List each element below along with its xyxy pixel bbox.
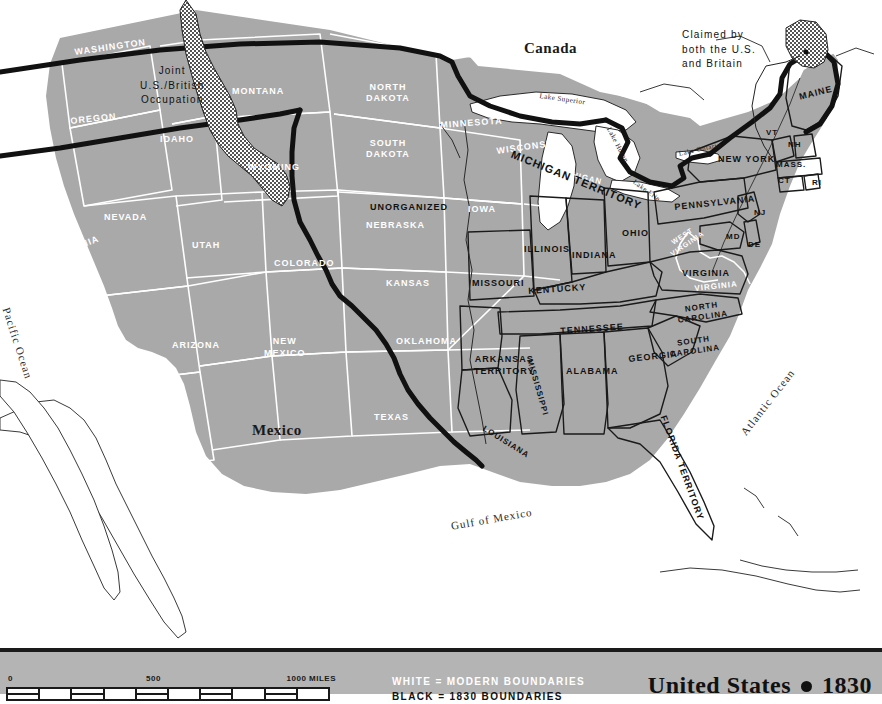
scale-segment [105, 689, 137, 699]
florida-keys [740, 560, 858, 572]
bullet-dot-icon [801, 681, 812, 692]
map-title: United States1830 [648, 672, 872, 699]
scale-segment [137, 689, 169, 699]
scale-segment [169, 689, 201, 699]
scale-segment [266, 689, 298, 699]
scale-label-max: 1000 MILES [287, 674, 336, 683]
map-canvas: Canada Mexico Pacific Ocean Atlantic Oce… [0, 0, 882, 640]
distance-scale: 0 500 1000 MILES [6, 674, 336, 704]
legend-key-modern: WHITE = MODERN BOUNDARIES [392, 674, 585, 689]
scale-segment [72, 689, 104, 699]
map-graphic [0, 0, 882, 640]
scale-segment [298, 689, 328, 699]
legend-bar: 0 500 1000 MILES WHI [0, 640, 882, 694]
disputed-marker-dot [804, 50, 809, 55]
scale-segment [233, 689, 265, 699]
bahamas-outline [744, 488, 798, 536]
scale-segment [8, 689, 40, 699]
scale-segment [201, 689, 233, 699]
legend-band: 0 500 1000 MILES WHI [0, 652, 882, 694]
scale-numbers: 0 500 1000 MILES [6, 674, 336, 685]
boundary-legend: WHITE = MODERN BOUNDARIES BLACK = 1830 B… [392, 674, 585, 704]
scale-label-mid: 500 [146, 674, 161, 683]
landmass-layer [0, 0, 882, 638]
scale-segment [40, 689, 72, 699]
map-title-year: 1830 [822, 672, 872, 698]
scale-bar [6, 687, 330, 701]
scale-label-zero: 0 [8, 674, 13, 683]
map-title-text: United States [648, 672, 791, 698]
legend-key-historic: BLACK = 1830 BOUNDARIES [392, 689, 585, 704]
